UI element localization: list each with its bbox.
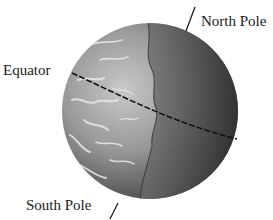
globe-diagram: [0, 0, 273, 220]
globe: [62, 22, 240, 200]
north-pole-label: North Pole: [201, 14, 266, 29]
south-pole-pointer: [110, 203, 118, 219]
north-pole-pointer: [186, 7, 195, 31]
south-pole-label: South Pole: [26, 198, 91, 213]
equator-label: Equator: [3, 63, 50, 78]
